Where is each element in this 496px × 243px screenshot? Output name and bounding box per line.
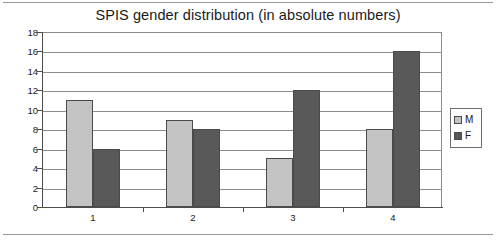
bar-f-4 bbox=[393, 51, 420, 207]
y-tick-label: 12 bbox=[12, 85, 38, 96]
y-tick-mark bbox=[37, 168, 42, 169]
x-tick-label: 4 bbox=[373, 212, 413, 223]
y-tick-label: 18 bbox=[12, 27, 38, 38]
legend-item-m: M bbox=[454, 115, 473, 125]
y-tick-mark bbox=[37, 188, 42, 189]
y-tick-label: 4 bbox=[12, 163, 38, 174]
y-tick-mark bbox=[37, 110, 42, 111]
chart-screenshot: SPIS gender distribution (in absolute nu… bbox=[0, 0, 496, 243]
x-tick-mark bbox=[143, 207, 144, 212]
bar-f-1 bbox=[93, 149, 120, 207]
x-tick-mark bbox=[243, 207, 244, 212]
chart-legend: MF bbox=[450, 108, 482, 148]
bar-f-3 bbox=[293, 90, 320, 207]
y-tick-mark bbox=[37, 149, 42, 150]
y-tick-mark bbox=[37, 71, 42, 72]
legend-swatch-icon bbox=[454, 132, 462, 140]
chart-title: SPIS gender distribution (in absolute nu… bbox=[0, 7, 496, 23]
y-tick-label: 14 bbox=[12, 65, 38, 76]
y-tick-label: 16 bbox=[12, 46, 38, 57]
y-tick-label: 2 bbox=[12, 182, 38, 193]
bar-m-2 bbox=[166, 120, 193, 208]
outer-frame-bottom-line bbox=[3, 234, 493, 235]
y-tick-mark bbox=[37, 51, 42, 52]
y-tick-mark bbox=[37, 207, 42, 208]
y-axis-labels: 024681012141618 bbox=[8, 32, 38, 207]
y-tick-label: 0 bbox=[12, 202, 38, 213]
x-tick-mark bbox=[343, 207, 344, 212]
y-tick-mark bbox=[37, 32, 42, 33]
x-tick-label: 3 bbox=[273, 212, 313, 223]
bars-layer bbox=[43, 32, 442, 207]
y-tick-label: 8 bbox=[12, 124, 38, 135]
legend-label: F bbox=[465, 131, 471, 141]
legend-label: M bbox=[465, 115, 473, 125]
y-tick-mark bbox=[37, 129, 42, 130]
bar-f-2 bbox=[193, 129, 220, 207]
bar-m-3 bbox=[266, 158, 293, 207]
bar-m-1 bbox=[66, 100, 93, 207]
bar-m-4 bbox=[366, 129, 393, 207]
x-tick-label: 1 bbox=[73, 212, 113, 223]
y-tick-mark bbox=[37, 90, 42, 91]
outer-frame-top-line bbox=[3, 2, 493, 3]
legend-item-f: F bbox=[454, 131, 471, 141]
y-tick-label: 6 bbox=[12, 143, 38, 154]
legend-swatch-icon bbox=[454, 116, 462, 124]
y-tick-label: 10 bbox=[12, 104, 38, 115]
x-tick-label: 2 bbox=[173, 212, 213, 223]
